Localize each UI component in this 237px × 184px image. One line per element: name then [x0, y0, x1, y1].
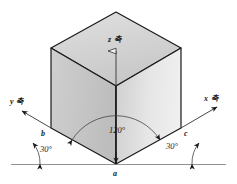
angle-label-30-right: 30° — [166, 142, 178, 151]
isometric-cube-figure: z 축 y 축 x 축 a b c 120° 30° 30° — [0, 0, 237, 184]
angle-label-120: 120° — [109, 126, 125, 135]
vertex-label-b: b — [41, 130, 45, 138]
z-axis-label: z 축 — [108, 36, 121, 44]
angle-label-30-left: 30° — [40, 145, 52, 154]
figure-canvas — [0, 0, 237, 184]
x-axis-line — [181, 107, 217, 128]
x-axis-label: x 축 — [204, 95, 218, 103]
vertex-label-a: a — [113, 170, 117, 178]
angle-30-left-arc — [33, 143, 40, 164]
angle-30-right-arc — [192, 143, 199, 164]
vertex-label-c: c — [184, 130, 188, 138]
y-axis-line — [22, 111, 51, 128]
y-axis-label: y 축 — [10, 98, 23, 106]
